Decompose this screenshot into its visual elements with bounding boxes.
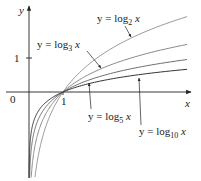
y-tick-1-label: 1 xyxy=(14,52,20,64)
svg-text:y = log3 x: y = log3 x xyxy=(37,38,80,53)
svg-text:y = log2 x: y = log2 x xyxy=(97,12,140,27)
log-curves-chart: y x 0 1 1 y = log2 x y = log3 x y = log5… xyxy=(0,0,201,181)
label-log5: y = log5 x xyxy=(88,110,131,125)
curve-log10 xyxy=(29,69,187,177)
leader-arrow-log10 xyxy=(139,78,141,125)
label-log10: y = log10 x xyxy=(139,125,186,140)
svg-text:y = log10 x: y = log10 x xyxy=(139,125,186,140)
origin-label: 0 xyxy=(10,93,16,105)
x-axis-label: x xyxy=(184,97,190,109)
svg-text:y = log5 x: y = log5 x xyxy=(88,110,131,125)
label-log2: y = log2 x xyxy=(97,12,140,27)
label-log3: y = log3 x xyxy=(37,38,80,53)
leader-arrow-log5 xyxy=(89,83,91,109)
y-axis-label: y xyxy=(18,4,24,16)
leader-arrow-log3 xyxy=(87,51,101,68)
x-tick-1-label: 1 xyxy=(61,95,67,107)
leader-arrow-log2 xyxy=(125,26,131,37)
